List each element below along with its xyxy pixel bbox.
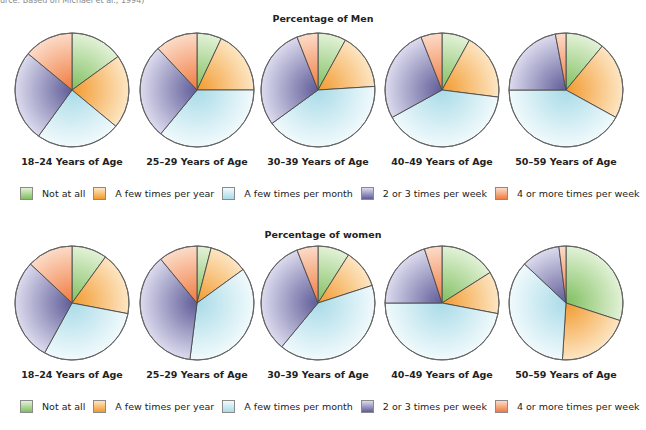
legend-item: 2 or 3 times per week — [361, 187, 487, 200]
legend-item: 2 or 3 times per week — [361, 400, 487, 413]
legend-label: 2 or 3 times per week — [383, 401, 487, 412]
pie-chart — [382, 243, 502, 363]
men-pie-5: 50–59 Years of Age — [501, 30, 631, 167]
legend-swatch — [495, 400, 508, 413]
pie-chart — [506, 30, 626, 150]
legend-label: A few times per month — [244, 401, 353, 412]
legend-item: 4 or more times per week — [495, 400, 640, 413]
legend-item: A few times per year — [93, 187, 214, 200]
pie-slice-a-few-times-per-month — [385, 303, 498, 360]
men-pie-3: 30–39 Years of Age — [253, 30, 383, 167]
legend-item: A few times per month — [222, 187, 353, 200]
legend-swatch — [361, 187, 374, 200]
pie-chart — [382, 30, 502, 150]
pie-age-label: 40–49 Years of Age — [377, 156, 507, 167]
women-pie-2: 25–29 Years of Age — [132, 243, 262, 380]
pie-chart — [258, 30, 378, 150]
men-pie-1: 18–24 Years of Age — [7, 30, 137, 167]
pie-chart — [12, 30, 132, 150]
men-section-title: Percentage of Men — [0, 13, 646, 24]
pie-age-label: 50–59 Years of Age — [501, 156, 631, 167]
legend-swatch — [222, 187, 235, 200]
men-pie-row: 18–24 Years of Age25–29 Years of Age30–3… — [0, 30, 646, 180]
women-legend: Not at allA few times per yearA few time… — [20, 398, 646, 414]
legend-swatch — [222, 400, 235, 413]
pie-age-label: 30–39 Years of Age — [253, 156, 383, 167]
pie-chart — [506, 243, 626, 363]
women-section-title: Percentage of women — [0, 229, 646, 240]
legend-swatch — [93, 187, 106, 200]
legend-label: A few times per month — [244, 188, 353, 199]
legend-item: Not at all — [20, 187, 85, 200]
pie-age-label: 18–24 Years of Age — [7, 156, 137, 167]
pie-age-label: 30–39 Years of Age — [253, 369, 383, 380]
legend-label: Not at all — [42, 188, 85, 199]
women-pie-5: 50–59 Years of Age — [501, 243, 631, 380]
pie-age-label: 18–24 Years of Age — [7, 369, 137, 380]
legend-label: 4 or more times per week — [517, 401, 640, 412]
legend-item: A few times per year — [93, 400, 214, 413]
legend-label: 2 or 3 times per week — [383, 188, 487, 199]
legend-label: 4 or more times per week — [517, 188, 640, 199]
legend-item: Not at all — [20, 400, 85, 413]
pie-age-label: 25–29 Years of Age — [132, 156, 262, 167]
legend-swatch — [495, 187, 508, 200]
pie-chart — [12, 243, 132, 363]
pie-chart — [137, 30, 257, 150]
legend-swatch — [93, 400, 106, 413]
pie-age-label: 50–59 Years of Age — [501, 369, 631, 380]
women-pie-row: 18–24 Years of Age25–29 Years of Age30–3… — [0, 243, 646, 393]
legend-label: A few times per year — [115, 188, 214, 199]
pie-chart — [258, 243, 378, 363]
pie-age-label: 40–49 Years of Age — [377, 369, 507, 380]
legend-swatch — [361, 400, 374, 413]
women-pie-4: 40–49 Years of Age — [377, 243, 507, 380]
legend-item: A few times per month — [222, 400, 353, 413]
men-pie-4: 40–49 Years of Age — [377, 30, 507, 167]
pie-age-label: 25–29 Years of Age — [132, 369, 262, 380]
women-pie-3: 30–39 Years of Age — [253, 243, 383, 380]
men-legend: Not at allA few times per yearA few time… — [20, 185, 646, 201]
men-pie-2: 25–29 Years of Age — [132, 30, 262, 167]
legend-label: Not at all — [42, 401, 85, 412]
legend-label: A few times per year — [115, 401, 214, 412]
source-note: urce: Based on Michael et al., 1994) — [0, 0, 144, 5]
legend-swatch — [20, 400, 33, 413]
pie-chart — [137, 243, 257, 363]
legend-swatch — [20, 187, 33, 200]
women-pie-1: 18–24 Years of Age — [7, 243, 137, 380]
legend-item: 4 or more times per week — [495, 187, 640, 200]
